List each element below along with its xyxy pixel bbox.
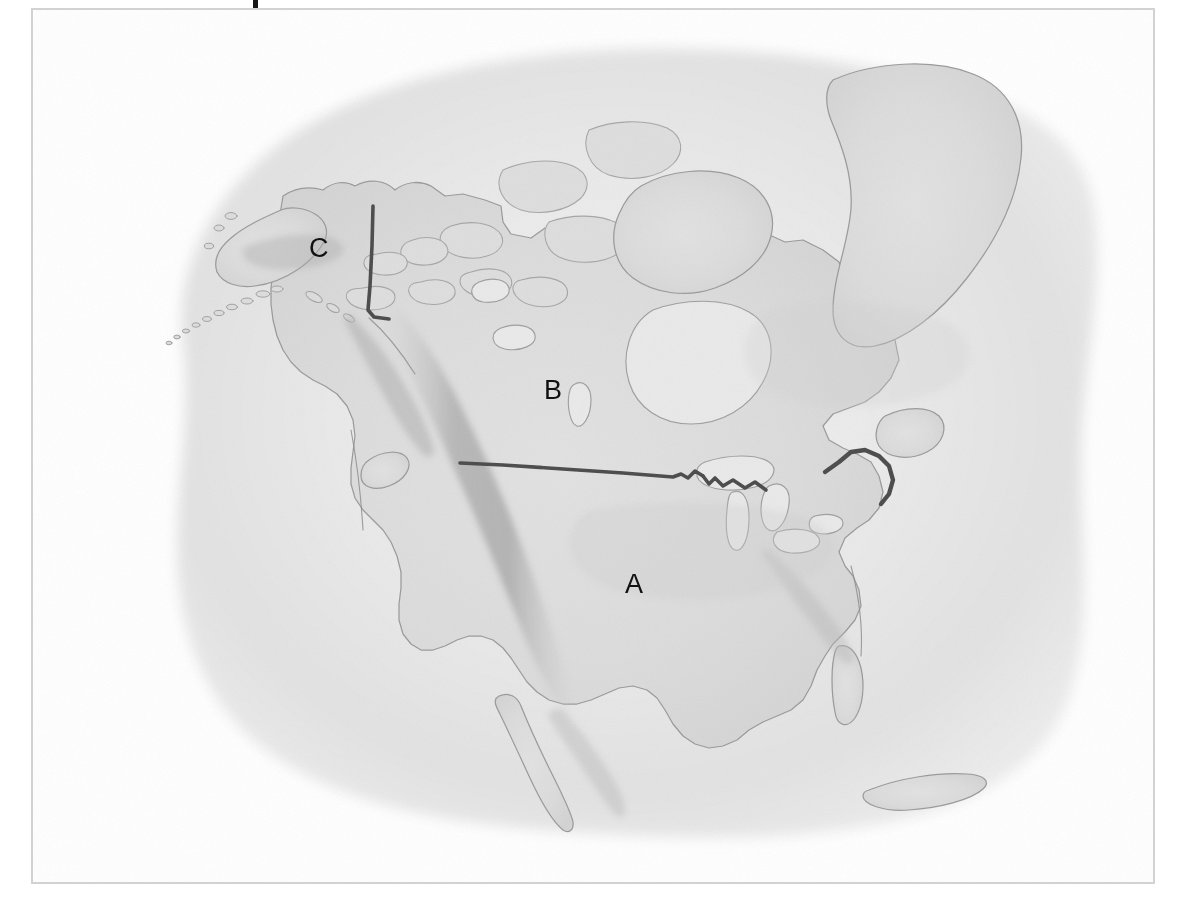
page-root: A B C bbox=[0, 0, 1184, 908]
map-label-a: A bbox=[625, 571, 643, 598]
north-america-map bbox=[33, 10, 1153, 882]
great-bear-lake bbox=[472, 279, 509, 302]
great-slave-lake bbox=[493, 325, 535, 350]
eastern-canada-shade bbox=[745, 303, 969, 407]
map-figure: A B C bbox=[33, 10, 1153, 882]
map-label-b: B bbox=[544, 377, 562, 404]
map-label-c: C bbox=[309, 235, 329, 262]
